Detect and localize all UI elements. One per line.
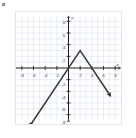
figure-root: -8 -6 -4 -2 2 4 6 8 8 6 4 2 -2 -4 -6 -8 … <box>0 0 136 138</box>
plot-svg <box>16 12 121 124</box>
abs-value-curve <box>32 51 110 123</box>
coordinate-plane: -8 -6 -4 -2 2 4 6 8 8 6 4 2 -2 -4 -6 -8 … <box>15 11 122 125</box>
corner-artifact-mark <box>2 3 5 6</box>
